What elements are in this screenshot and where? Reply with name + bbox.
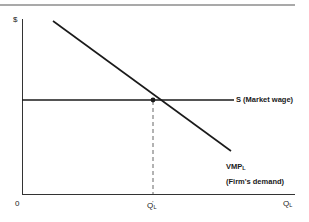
tick-sub: L [153,204,156,210]
demand-label: VMPL [226,163,246,172]
origin-label: 0 [15,200,19,208]
supply-label: S (Market wage) [236,96,293,104]
y-axis-label: $ [13,16,17,24]
x-axis-label: QL [283,200,292,209]
demand-label-main: VMP [226,162,242,171]
diagram-canvas [0,0,309,222]
x-label-sub: L [289,202,292,208]
equilibrium-point [151,98,156,103]
vmp-demand-line [53,21,231,151]
x-tick-label-qprime: Q'L [147,200,156,211]
demand-label-sub: L [242,165,245,171]
demand-caption: (Firm's demand) [226,178,284,186]
